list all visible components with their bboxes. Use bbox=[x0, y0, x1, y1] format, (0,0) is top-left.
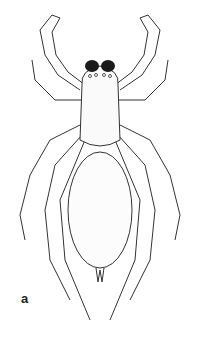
spider-illustration bbox=[0, 0, 200, 342]
panel-label: a bbox=[21, 291, 28, 306]
spider-drawing bbox=[0, 0, 200, 342]
